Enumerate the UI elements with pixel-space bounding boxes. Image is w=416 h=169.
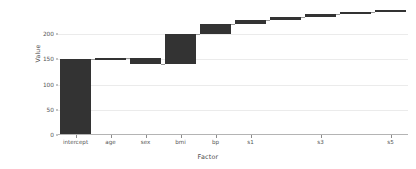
y-tick-label: 200	[43, 31, 54, 37]
y-tick-label: 0	[50, 132, 54, 138]
x-tick-mark	[146, 135, 147, 138]
x-tick-mark	[391, 135, 392, 138]
x-tick-label-s3: s3	[317, 139, 323, 145]
x-tick-label-bmi: bmi	[175, 139, 186, 145]
bar-connector	[161, 64, 166, 65]
gridline	[58, 110, 408, 111]
bar-connector	[196, 34, 201, 35]
x-tick-mark	[216, 135, 217, 138]
bar-age[interactable]	[95, 58, 125, 59]
plot-area: 050100150200 interceptagesexbmibps1s3s5	[58, 8, 408, 135]
y-tick-label: 100	[43, 82, 54, 88]
gridline	[58, 34, 408, 35]
y-tick-mark	[56, 59, 59, 60]
bar-s5[interactable]	[375, 10, 405, 12]
y-tick-mark	[56, 109, 59, 110]
y-tick-mark	[56, 135, 59, 136]
x-tick-label-sex: sex	[141, 139, 151, 145]
waterfall-chart: Value 050100150200 interceptagesexbmibps…	[0, 0, 416, 169]
x-tick-mark	[111, 135, 112, 138]
x-tick-mark	[181, 135, 182, 138]
x-tick-mark	[251, 135, 252, 138]
x-tick-label-bp: bp	[212, 139, 219, 145]
bar-intercept[interactable]	[60, 59, 90, 135]
y-tick-mark	[56, 84, 59, 85]
x-tick-label-s5: s5	[387, 139, 393, 145]
bar-s2[interactable]	[270, 17, 300, 20]
bar-bmi[interactable]	[165, 34, 195, 64]
y-axis-title: Value	[34, 29, 41, 79]
bar-connector	[371, 12, 376, 13]
x-tick-mark	[76, 135, 77, 138]
bar-s1[interactable]	[235, 20, 265, 24]
gridline	[58, 85, 408, 86]
bar-connector	[231, 24, 236, 25]
bar-connector	[301, 17, 306, 18]
bar-bp[interactable]	[200, 24, 230, 34]
bar-s4[interactable]	[340, 12, 370, 14]
x-axis-title: Factor	[0, 153, 416, 161]
bar-connector	[266, 20, 271, 21]
y-tick-mark	[56, 34, 59, 35]
bar-connector	[336, 14, 341, 15]
bar-s3[interactable]	[305, 14, 335, 17]
x-tick-mark	[321, 135, 322, 138]
bar-sex[interactable]	[130, 58, 160, 64]
x-tick-label-s1: s1	[247, 139, 253, 145]
x-tick-label-age: age	[105, 139, 115, 145]
y-tick-label: 150	[43, 56, 54, 62]
x-tick-label-intercept: intercept	[63, 139, 88, 145]
y-tick-label: 50	[47, 107, 54, 113]
